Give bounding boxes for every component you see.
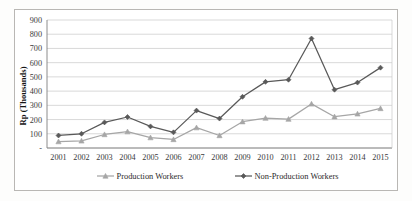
x-tick-label: 2009 — [234, 153, 250, 162]
x-tick-label: 2008 — [211, 153, 227, 162]
line-chart: -100200300400500600700800900 20012002200… — [0, 0, 412, 201]
x-tick-label: 2003 — [96, 153, 112, 162]
y-tick-label: 100 — [30, 130, 42, 139]
y-axis-label-group: Rp (Thousands) — [18, 66, 28, 125]
y-tick-label: 300 — [30, 101, 42, 110]
plot-background — [47, 20, 392, 148]
x-tick-label: 2004 — [119, 153, 135, 162]
legend-label: Non-Production Workers — [255, 172, 339, 181]
legend-label: Production Workers — [117, 172, 184, 181]
x-tick-label: 2001 — [50, 153, 66, 162]
chart-legend: Production WorkersNon-Production Workers — [97, 172, 339, 181]
y-tick-label: 900 — [30, 16, 42, 25]
x-tick-label: 2015 — [372, 153, 388, 162]
x-tick-label: 2005 — [142, 153, 158, 162]
y-tick-label: - — [39, 144, 42, 153]
y-tick-label: 500 — [30, 73, 42, 82]
data-point-marker — [241, 174, 246, 179]
y-tick-label: 400 — [30, 87, 42, 96]
x-tick-label: 2007 — [188, 153, 204, 162]
x-tick-label: 2010 — [257, 153, 273, 162]
x-tick-label: 2011 — [280, 153, 296, 162]
chart-figure: -100200300400500600700800900 20012002200… — [0, 0, 412, 201]
y-tick-label: 200 — [30, 116, 42, 125]
y-tick-label: 700 — [30, 44, 42, 53]
x-tick-label: 2006 — [165, 153, 181, 162]
y-tick-label: 800 — [30, 30, 42, 39]
x-tick-label: 2014 — [349, 153, 365, 162]
y-axis-label: Rp (Thousands) — [18, 66, 28, 125]
x-tick-label: 2012 — [303, 153, 319, 162]
gridlines — [47, 20, 392, 148]
y-tick-label: 600 — [30, 59, 42, 68]
y-axis-ticks: -100200300400500600700800900 — [30, 16, 43, 153]
x-tick-label: 2002 — [73, 153, 89, 162]
legend-item-2[interactable]: Non-Production Workers — [235, 172, 339, 181]
x-axis-ticks: 2001200220032004200520062007200820092010… — [50, 153, 388, 162]
legend-item-1[interactable]: Production Workers — [97, 172, 183, 181]
x-tick-label: 2013 — [326, 153, 342, 162]
